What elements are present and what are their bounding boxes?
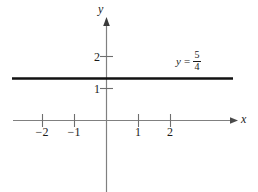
coordinate-plane [0,0,258,192]
x-axis-arrowhead [230,117,238,124]
y-axis-label: y [98,3,103,15]
equation-left-side: y [176,56,181,67]
fraction-five-fourths: 5 4 [193,50,201,72]
y-tick-label-1: 1 [88,83,100,95]
equation-annotation: y = 5 4 [176,50,201,72]
equation-equals-sign: = [184,56,190,67]
x-tick-label-2: 2 [163,126,177,138]
x-tick-label-minus-2: −2 [32,126,52,138]
x-tick-label-1: 1 [131,126,145,138]
x-tick-label-minus-1: −1 [64,126,84,138]
fraction-numerator: 5 [194,50,201,61]
y-tick-label-2: 2 [88,51,100,63]
graph-figure: y x −2 −1 1 2 1 2 y = 5 4 [0,0,258,192]
y-axis-arrowhead [103,17,110,26]
x-axis-label: x [241,113,246,125]
fraction-denominator: 4 [194,62,201,73]
